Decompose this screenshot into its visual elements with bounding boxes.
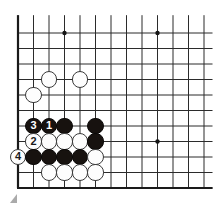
go-diagram-screenshot: 3124 (0, 0, 216, 207)
stone-move-number: 4 (11, 150, 25, 164)
corner-triangle-artifact (10, 194, 17, 203)
stone-white[interactable] (87, 149, 103, 165)
go-board[interactable] (0, 0, 216, 207)
stone-black[interactable] (56, 118, 72, 134)
stone-white[interactable] (56, 133, 72, 149)
star-point (62, 31, 66, 35)
stone-white[interactable] (72, 164, 88, 180)
stone-black[interactable] (25, 149, 41, 165)
stone-black-move-3[interactable]: 3 (25, 118, 41, 134)
stone-black[interactable] (41, 149, 57, 165)
stone-move-number: 3 (26, 119, 40, 133)
stone-black[interactable] (56, 149, 72, 165)
stone-white[interactable] (25, 87, 41, 103)
star-point (155, 31, 159, 35)
stone-black-move-1[interactable]: 1 (41, 118, 57, 134)
stone-move-number: 1 (42, 119, 56, 133)
stone-black[interactable] (72, 149, 88, 165)
stone-white[interactable] (56, 164, 72, 180)
stone-black[interactable] (87, 118, 103, 134)
stone-white[interactable] (41, 133, 57, 149)
stone-white[interactable] (41, 164, 57, 180)
stone-white[interactable] (72, 133, 88, 149)
stone-white[interactable] (87, 164, 103, 180)
stone-white-move-2[interactable]: 2 (25, 133, 41, 149)
stone-white[interactable] (41, 71, 57, 87)
stone-white-move-4[interactable]: 4 (10, 149, 26, 165)
star-point (155, 139, 159, 143)
stone-move-number: 2 (26, 134, 40, 148)
stone-white[interactable] (72, 71, 88, 87)
stone-black[interactable] (87, 133, 103, 149)
